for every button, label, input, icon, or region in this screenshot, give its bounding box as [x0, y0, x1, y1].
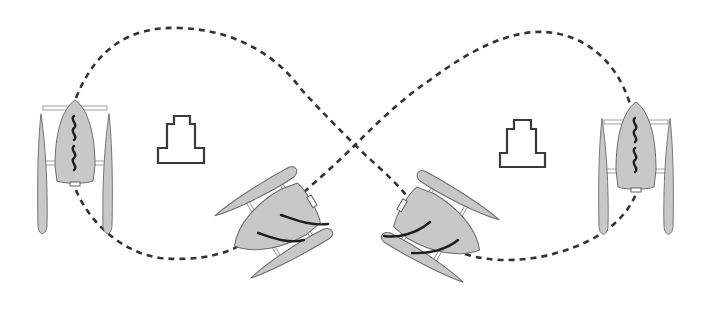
outrigger-left: [599, 119, 609, 235]
outrigger-right: [103, 114, 113, 234]
main-hull: [616, 102, 656, 189]
stern-thruster: [631, 188, 641, 192]
main-hull: [389, 183, 492, 273]
outrigger-left: [38, 114, 48, 234]
outrigger-right: [664, 119, 674, 235]
figure-eight-diagram: Figure-eight trajectory of a trimaran ve…: [0, 0, 714, 313]
vessel-4-trimaran: Trimaran heading north (right loop): [599, 102, 674, 234]
obstacle-right: Stepped obstacle (right loop): [500, 120, 545, 167]
obstacle-left: Stepped obstacle (left loop): [158, 116, 204, 163]
stern-thruster: [70, 182, 80, 186]
trajectory-path: [76, 28, 636, 260]
main-hull: [55, 100, 95, 183]
vessel-1-trimaran: Trimaran heading north (left loop): [38, 100, 113, 234]
